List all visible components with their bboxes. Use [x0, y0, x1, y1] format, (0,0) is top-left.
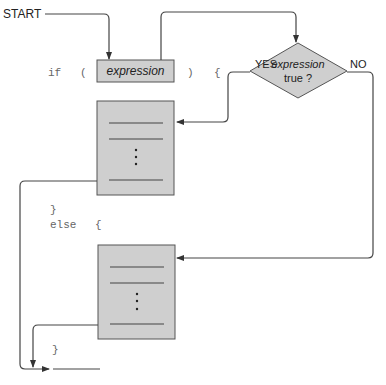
close-brace-1: }	[50, 204, 57, 216]
if-keyword: if	[48, 67, 61, 79]
close-brace-2: }	[52, 344, 59, 356]
if-else-flow-diagram: START if ( expression ) { expression tru…	[0, 0, 386, 385]
else-exit-arrow	[33, 325, 98, 367]
ellipsis-dot	[136, 308, 138, 310]
expression-label: expression	[106, 64, 164, 78]
open-paren: (	[80, 67, 87, 79]
ellipsis-dot	[136, 300, 138, 302]
start-label: START	[3, 7, 42, 21]
ellipsis-dot	[135, 149, 137, 151]
ellipsis-dot	[136, 293, 138, 295]
decision-diamond	[250, 43, 347, 98]
no-branch-arrow	[177, 72, 373, 258]
decision-line2: true ?	[284, 72, 312, 84]
then-block	[97, 101, 174, 195]
start-arrow	[45, 14, 109, 59]
expression-to-decision-arrow	[161, 12, 296, 60]
ellipsis-dot	[135, 156, 137, 158]
then-exit-arrow	[20, 181, 97, 369]
yes-label: YES	[255, 58, 277, 70]
else-block	[98, 245, 175, 339]
decision-line1: expression	[271, 58, 324, 70]
yes-branch-arrow	[177, 72, 250, 122]
ellipsis-dot	[135, 163, 137, 165]
close-paren: )	[187, 67, 194, 79]
else-keyword: else	[50, 219, 76, 231]
open-brace: {	[214, 67, 221, 79]
else-brace: {	[95, 219, 102, 231]
no-label: NO	[350, 58, 367, 70]
